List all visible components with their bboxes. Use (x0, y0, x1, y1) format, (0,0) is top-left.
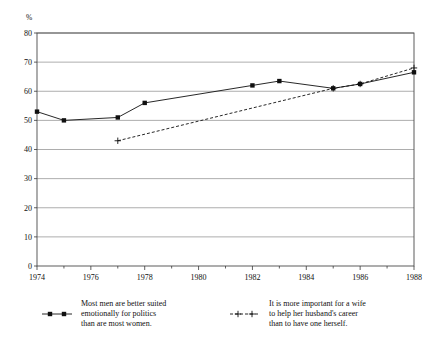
line-chart: 01020304050607080 1974197619781980198219… (0, 0, 429, 339)
data-point-marker (143, 101, 147, 105)
x-tick-label: 1976 (83, 273, 99, 282)
gridlines (37, 33, 414, 237)
x-tick-label: 1980 (191, 273, 207, 282)
x-tick-label: 1982 (244, 273, 260, 282)
y-tick-label: 50 (24, 116, 32, 125)
y-tick-label: 30 (24, 174, 32, 183)
y-tick-label: 10 (24, 233, 32, 242)
chart-container: 01020304050607080 1974197619781980198219… (0, 0, 429, 339)
data-point-marker (48, 312, 52, 316)
x-axis-tick-labels: 19741976197819801982198419861988 (29, 273, 422, 282)
series-line (118, 68, 414, 141)
data-point-marker (116, 115, 120, 119)
data-series-layer (35, 65, 417, 144)
y-tick-label: 20 (24, 204, 32, 213)
legend-label-line: Most men are better suited (81, 299, 166, 308)
data-point-marker (277, 79, 281, 83)
x-tick-label: 1986 (352, 273, 368, 282)
x-tick-label: 1984 (298, 273, 314, 282)
y-tick-label: 80 (24, 29, 32, 38)
x-axis-ticks (37, 266, 414, 270)
legend-label-line: than to have one herself. (269, 319, 347, 328)
legend-label-line: to help her husband's career (269, 309, 358, 318)
y-axis-title: % (26, 13, 32, 22)
x-tick-label: 1978 (137, 273, 153, 282)
data-series-2 (115, 65, 418, 144)
data-point-marker (35, 109, 39, 113)
y-tick-label: 40 (24, 145, 32, 154)
y-tick-label: 70 (24, 58, 32, 67)
y-tick-label: 0 (28, 262, 32, 271)
legend-entry-1[interactable]: Most men are better suitedemotionally fo… (42, 299, 166, 328)
data-point-marker (62, 118, 66, 122)
y-axis-tick-labels: 01020304050607080 (24, 29, 32, 271)
data-point-marker (250, 83, 254, 87)
data-point-marker (62, 312, 66, 316)
x-tick-label: 1974 (29, 273, 45, 282)
chart-legend: Most men are better suitedemotionally fo… (42, 299, 366, 328)
y-tick-label: 60 (24, 87, 32, 96)
x-tick-label: 1988 (406, 273, 422, 282)
legend-label-line: than are most women. (81, 319, 152, 328)
series-line (37, 72, 414, 120)
legend-entry-2[interactable]: It is more important for a wifeto help h… (230, 299, 366, 328)
legend-label-line: emotionally for politics (81, 309, 156, 318)
legend-label-line: It is more important for a wife (269, 299, 366, 308)
